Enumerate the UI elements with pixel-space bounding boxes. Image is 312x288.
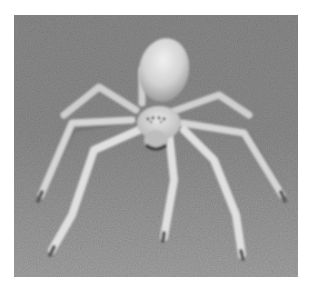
spider-illustration <box>14 15 298 277</box>
spider-photo <box>14 15 298 277</box>
